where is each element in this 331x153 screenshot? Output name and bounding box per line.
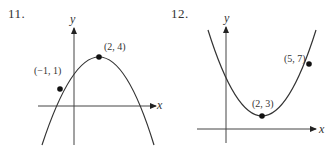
vertex-point-12 [259, 113, 265, 119]
vertex-label-12: (2, 3) [252, 98, 274, 109]
data-point-12 [306, 61, 312, 67]
graph-12 [0, 0, 331, 153]
x-axis-label-12: x [319, 122, 324, 137]
y-axis-label-12: y [224, 11, 229, 26]
point-label-12: (5, 7) [284, 53, 306, 64]
exercise-figures: 11. y x (2, 4) (−1, 1) 12. [0, 0, 331, 153]
